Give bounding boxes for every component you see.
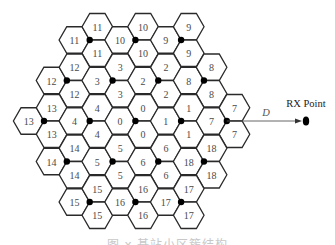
cell-id-label: 7 — [209, 116, 214, 127]
base-station-dot-4 — [87, 118, 93, 124]
cell-id-label: 17 — [184, 184, 194, 195]
cell-id-label: 9 — [186, 22, 191, 33]
cell-id-label: 17 — [161, 197, 171, 208]
cell-id-label: 11 — [70, 35, 80, 46]
cell-id-label: 12 — [70, 89, 80, 100]
hex-cells-layer: 1111111010109991212123332228881313134440… — [13, 14, 249, 229]
cell-id-label: 2 — [140, 76, 145, 87]
base-station-dot-9 — [178, 37, 184, 43]
base-station-dot-8 — [201, 77, 207, 83]
cell-id-label: 13 — [47, 129, 57, 140]
cell-id-label: 14 — [70, 170, 80, 181]
cell-id-label: 8 — [209, 62, 214, 73]
hex-cell-diagram: 1111111010109991212123332228881313134440… — [0, 0, 335, 245]
base-station-dot-5 — [109, 158, 115, 164]
cell-id-label: 18 — [184, 157, 194, 168]
arrow-head-icon — [295, 119, 302, 124]
cell-id-label: 5 — [118, 170, 123, 181]
cell-id-label: 6 — [163, 170, 168, 181]
cell-id-label: 12 — [70, 62, 80, 73]
cell-id-label: 15 — [92, 184, 102, 195]
cell-id-label: 4 — [95, 129, 100, 140]
cell-id-label: 5 — [118, 143, 123, 154]
cell-id-label: 3 — [95, 76, 100, 87]
rx-point-label: RX Point — [286, 98, 325, 109]
cell-id-label: 1 — [186, 103, 191, 114]
cell-id-label: 0 — [141, 129, 146, 140]
cell-id-label: 0 — [118, 116, 123, 127]
base-station-dot-17 — [178, 199, 184, 205]
base-station-dot-18 — [201, 158, 207, 164]
rx-point-marker — [303, 116, 309, 125]
cell-id-label: 16 — [138, 210, 148, 221]
cell-id-label: 4 — [95, 103, 100, 114]
cell-id-label: 2 — [163, 62, 168, 73]
cell-id-label: 18 — [207, 143, 217, 154]
distance-label: D — [261, 107, 270, 118]
cell-id-label: 2 — [163, 89, 168, 100]
base-station-dot-2 — [155, 77, 161, 83]
cell-id-label: 16 — [115, 197, 125, 208]
cell-id-label: 1 — [186, 129, 191, 140]
cell-id-label: 9 — [163, 35, 168, 46]
cell-id-label: 0 — [141, 103, 146, 114]
cell-id-label: 14 — [70, 143, 80, 154]
cell-id-label: 11 — [93, 22, 103, 33]
cell-id-label: 11 — [93, 48, 103, 59]
base-station-dot-0 — [132, 118, 138, 124]
figure-caption: 图 x 基站小区簇结构 — [0, 238, 335, 245]
base-station-dot-16 — [132, 199, 138, 205]
base-station-dot-12 — [64, 77, 70, 83]
cell-id-label: 13 — [47, 103, 57, 114]
cell-id-label: 3 — [118, 89, 123, 100]
base-station-dot-14 — [64, 158, 70, 164]
base-station-dot-6 — [155, 158, 161, 164]
cell-id-label: 7 — [232, 129, 237, 140]
cell-id-label: 15 — [69, 197, 79, 208]
cell-id-label: 7 — [232, 103, 237, 114]
cell-id-label: 17 — [184, 210, 194, 221]
cell-id-label: 10 — [115, 35, 125, 46]
cell-id-label: 15 — [92, 210, 102, 221]
cell-id-label: 6 — [140, 157, 145, 168]
cell-id-label: 18 — [207, 170, 217, 181]
base-station-dot-3 — [109, 77, 115, 83]
cell-id-label: 9 — [186, 48, 191, 59]
base-station-dot-1 — [178, 118, 184, 124]
cell-id-label: 6 — [163, 143, 168, 154]
cell-id-label: 1 — [163, 116, 168, 127]
base-station-dot-10 — [132, 37, 138, 43]
cell-id-label: 10 — [138, 48, 148, 59]
cell-id-label: 10 — [138, 22, 148, 33]
cell-id-label: 4 — [72, 116, 77, 127]
cell-id-label: 14 — [47, 157, 57, 168]
base-station-dot-15 — [87, 199, 93, 205]
cell-id-label: 13 — [24, 116, 34, 127]
base-station-dot-11 — [87, 37, 93, 43]
base-station-dot-13 — [41, 118, 47, 124]
cell-id-label: 8 — [186, 76, 191, 87]
cell-id-label: 5 — [95, 157, 100, 168]
cell-id-label: 12 — [47, 76, 57, 87]
cell-id-label: 3 — [118, 62, 123, 73]
cell-id-label: 8 — [209, 89, 214, 100]
cell-id-label: 16 — [138, 184, 148, 195]
